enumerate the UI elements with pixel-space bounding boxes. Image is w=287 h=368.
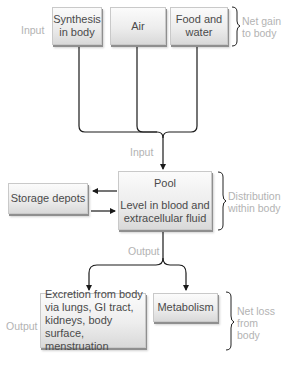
food-and-water-box: Food and water: [170, 7, 228, 45]
storage-arrows: [91, 191, 117, 211]
distribution-line1: Distribution: [228, 190, 281, 202]
air-box: Air: [110, 7, 166, 45]
food-water-label-line2: water: [176, 26, 222, 39]
net-loss-label: Net loss from body: [237, 305, 275, 341]
pool-box: Pool Level in blood and extracellular fl…: [118, 171, 212, 230]
synthesis-label-line1: Synthesis: [53, 13, 101, 26]
input-flow-label: Input: [130, 146, 153, 158]
net-loss-line3: body: [237, 329, 275, 341]
net-loss-line1: Net loss: [237, 305, 275, 317]
synthesis-in-body-box: Synthesis in body: [52, 7, 102, 45]
pool-desc-line1: Level in blood and: [120, 199, 209, 212]
distribution-line2: within body: [228, 202, 281, 214]
output-side-label: Output: [6, 320, 38, 332]
pool-title: Pool: [154, 177, 176, 190]
metabolism-box: Metabolism: [153, 293, 218, 322]
input-side-label: Input: [21, 24, 44, 36]
storage-depots-box: Storage depots: [8, 183, 88, 214]
net-gain-line1: Net gain: [242, 15, 281, 27]
food-water-label-line1: Food and: [176, 13, 222, 26]
net-loss-line2: from: [237, 317, 275, 329]
excretion-line1: Excretion from body: [45, 288, 145, 301]
output-flow-label: Output: [128, 245, 160, 257]
excretion-line2: via lungs, GI tract,: [45, 301, 145, 314]
pool-desc-line2: extracellular fluid: [124, 212, 207, 225]
output-split-connector: [89, 232, 186, 290]
excretion-line4: menstruation: [45, 340, 145, 353]
metabolism-label: Metabolism: [157, 301, 213, 314]
distribution-label: Distribution within body: [228, 190, 281, 214]
net-gain-line2: to body: [242, 27, 281, 39]
net-gain-label: Net gain to body: [242, 15, 281, 39]
synthesis-label-line2: in body: [53, 26, 101, 39]
air-label: Air: [131, 20, 144, 33]
excretion-line3: kidneys, body surface,: [45, 314, 145, 340]
storage-depots-label: Storage depots: [11, 192, 86, 205]
excretion-box: Excretion from body via lungs, GI tract,…: [40, 293, 146, 348]
braces: [218, 7, 240, 350]
